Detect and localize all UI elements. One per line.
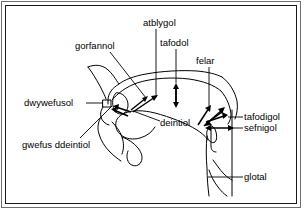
velum-outer-contour	[222, 77, 237, 119]
label-dwywefusol: dwywefusol	[24, 97, 73, 108]
label-glotal: glotal	[244, 171, 267, 182]
arrowhead-pharyngeal-left	[205, 125, 211, 131]
lip-closure-mark	[103, 100, 111, 107]
label-atblygol: atblygol	[143, 17, 176, 28]
cheek-contour	[88, 67, 106, 99]
sublingual-arc	[122, 137, 142, 166]
arrowhead-retroflex	[151, 95, 158, 101]
leader-deintiol	[133, 111, 160, 121]
label-felar: felar	[196, 55, 214, 66]
arrowhead-pharyngeal-right	[228, 125, 234, 131]
label-tafodol: tafodol	[160, 37, 189, 48]
label-deintiol: deintiol	[160, 117, 190, 128]
tongue-back-wall	[206, 136, 209, 196]
diagram-page: gorfannol atblygol tafodol felar dwywefu…	[0, 0, 304, 211]
hard-palate-contour	[112, 78, 221, 100]
arrowhead-uvular-b	[222, 112, 228, 119]
label-gorfannol: gorfannol	[75, 40, 115, 51]
leader-gwefus-ddeintiol	[80, 106, 112, 138]
arrowhead-palatal-down	[173, 102, 179, 108]
label-gwefus-ddeintiol: gwefus ddeintiol	[22, 139, 90, 150]
arrowhead-velar	[205, 105, 211, 112]
label-tafodigol: tafodigol	[244, 111, 280, 122]
lower-teeth-arc	[112, 122, 124, 154]
velum-contour	[221, 91, 231, 124]
jaw-profile	[98, 117, 121, 161]
label-sefnigol: sefnigol	[244, 122, 277, 133]
